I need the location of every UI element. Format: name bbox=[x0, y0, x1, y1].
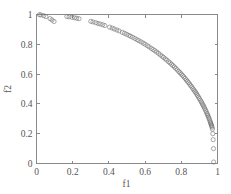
tick-labels: 00.20.40.60.8100.20.40.60.81 bbox=[21, 10, 221, 177]
scatter-plot: 00.20.40.60.8100.20.40.60.81 f1 f2 bbox=[0, 0, 231, 194]
data-points bbox=[37, 13, 215, 165]
x-tick-label: 0.4 bbox=[103, 167, 115, 177]
y-tick-label: 0 bbox=[28, 159, 33, 169]
data-point bbox=[185, 79, 189, 83]
data-point bbox=[211, 138, 215, 142]
data-point bbox=[211, 132, 215, 136]
x-tick-label: 1 bbox=[215, 167, 220, 177]
chart-figure: 00.20.40.60.8100.20.40.60.81 f1 f2 bbox=[0, 0, 231, 194]
y-tick-label: 0.6 bbox=[21, 70, 33, 80]
x-tick-label: 0.6 bbox=[139, 167, 151, 177]
x-tick-label: 0.8 bbox=[175, 167, 187, 177]
x-axis-title: f1 bbox=[123, 179, 131, 189]
x-tick-label: 0 bbox=[34, 167, 39, 177]
data-point bbox=[211, 147, 215, 151]
y-tick-label: 0.8 bbox=[21, 40, 33, 50]
x-tick-label: 0.2 bbox=[67, 167, 79, 177]
y-tick-label: 1 bbox=[28, 10, 33, 20]
data-point bbox=[108, 25, 112, 29]
y-tick-label: 0.2 bbox=[21, 129, 33, 139]
y-tick-label: 0.4 bbox=[21, 99, 33, 109]
y-axis-title: f2 bbox=[3, 85, 13, 93]
